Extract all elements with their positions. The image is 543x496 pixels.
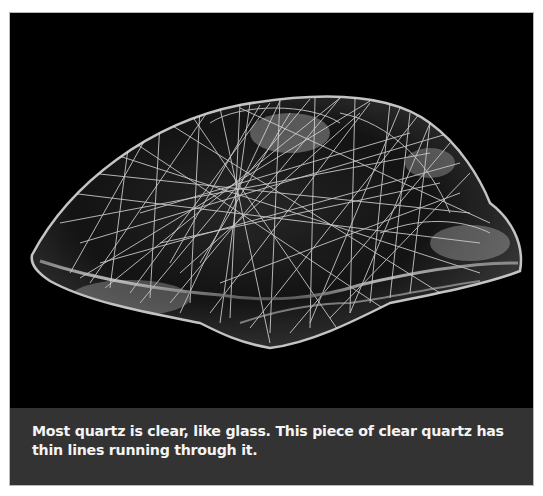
quartz-crystal-photo (10, 13, 533, 408)
quartz-crystal-icon (10, 13, 533, 408)
figure-frame: Most quartz is clear, like glass. This p… (9, 12, 534, 486)
caption-text: Most quartz is clear, like glass. This p… (32, 422, 513, 460)
caption-box: Most quartz is clear, like glass. This p… (10, 408, 533, 485)
